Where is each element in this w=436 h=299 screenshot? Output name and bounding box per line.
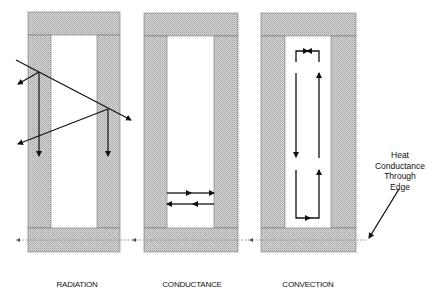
label-convection: CONVECTION [282, 280, 333, 289]
panel-radiation [16, 12, 131, 252]
convection-loop [296, 51, 319, 218]
panel-convection [261, 13, 356, 252]
annotation-line: Edge [375, 182, 425, 193]
heat-transfer-diagram [0, 0, 436, 299]
annotation-line: Heat [375, 150, 425, 161]
annotation-line: Conductance [375, 161, 425, 172]
annotation-line: Through [375, 171, 425, 182]
annotation-pointer-arrow [369, 189, 399, 238]
annotation-heat-conductance-through-edge: Heat Conductance Through Edge [375, 150, 425, 192]
label-radiation: RADIATION [56, 280, 97, 289]
conductance-arrows [167, 193, 214, 204]
panel-conductance [144, 13, 238, 252]
label-conductance: CONDUCTANCE [162, 280, 221, 289]
